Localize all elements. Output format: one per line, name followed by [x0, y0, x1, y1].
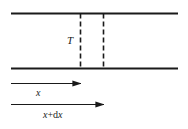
position-label-x: x: [36, 88, 40, 98]
position-label-x-plus-dx: x+dx: [43, 110, 63, 120]
position-label-operator: +d: [47, 109, 58, 120]
figure-canvas: T x x+dx: [0, 0, 188, 129]
tension-label: T: [67, 35, 73, 46]
position-label-var-2: x: [58, 109, 62, 120]
string-element-diagram-svg: [0, 0, 188, 129]
